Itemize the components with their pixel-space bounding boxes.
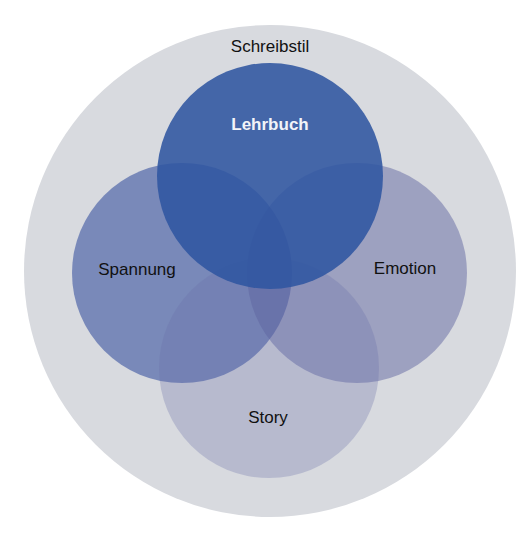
label-emotion: Emotion [374, 259, 436, 279]
label-schreibstil: Schreibstil [231, 37, 309, 57]
label-spannung: Spannung [98, 260, 176, 280]
circle-lehrbuch [157, 63, 383, 289]
label-story: Story [248, 408, 288, 428]
venn-diagram [0, 0, 531, 543]
label-lehrbuch: Lehrbuch [231, 115, 308, 135]
circle-story [159, 258, 379, 478]
